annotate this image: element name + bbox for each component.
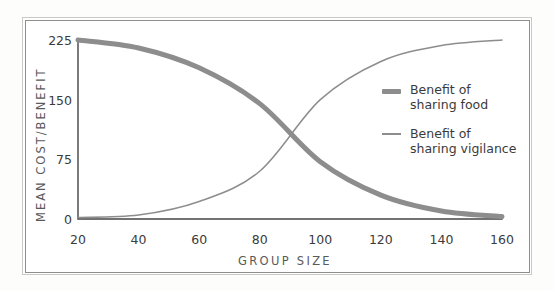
y-tick-label: 225 (34, 33, 72, 48)
x-tick-label: 40 (131, 232, 147, 247)
legend-swatch-container (382, 82, 410, 94)
x-tick-label: 20 (70, 232, 86, 247)
y-axis-title: MEAN COST/BENEFIT (34, 67, 48, 222)
chart-figure: 0 75 150 225 20 40 60 80 100 120 140 160… (0, 0, 554, 291)
legend-label-line2: sharing food (410, 97, 488, 112)
x-tick-label: 140 (429, 232, 453, 247)
thick-line-swatch-icon (382, 89, 401, 94)
chart-legend: Benefit of sharing food Benefit of shari… (382, 82, 532, 170)
legend-label-line1: Benefit of (410, 82, 488, 97)
thin-line-swatch-icon (382, 133, 401, 135)
x-tick-label: 120 (369, 232, 393, 247)
legend-label-sharing-vigilance: Benefit of sharing vigilance (410, 126, 516, 156)
legend-item-sharing-vigilance: Benefit of sharing vigilance (382, 126, 532, 156)
legend-label-sharing-food: Benefit of sharing food (410, 82, 488, 112)
x-axis-title: GROUP SIZE (238, 254, 332, 268)
x-tick-label: 60 (191, 232, 207, 247)
legend-label-line1: Benefit of (410, 126, 516, 141)
x-tick-label: 160 (490, 232, 514, 247)
legend-label-line2: sharing vigilance (410, 141, 516, 156)
x-tick-label: 80 (252, 232, 268, 247)
legend-item-sharing-food: Benefit of sharing food (382, 82, 532, 112)
x-tick-label: 100 (308, 232, 332, 247)
legend-swatch-container (382, 126, 410, 135)
